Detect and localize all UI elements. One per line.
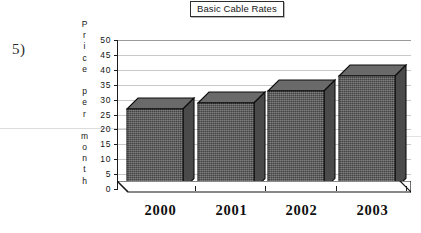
y-tick-mark [114, 189, 118, 190]
y-tick-mark [114, 100, 118, 101]
x-label-2002: 2002 [262, 202, 341, 219]
y-tick-mark [114, 144, 118, 145]
y-tick-mark [114, 115, 118, 116]
bar-2001 [198, 92, 265, 189]
y-tick-label: 20 [100, 124, 111, 134]
x-label-2000: 2000 [121, 202, 200, 219]
bar-2002 [268, 80, 335, 189]
x-tick-mark [265, 186, 266, 191]
gridline [118, 55, 411, 56]
y-tick-label: 5 [106, 169, 111, 179]
bar-front-face [339, 76, 395, 189]
y-tick-mark [114, 70, 118, 71]
bar-2003 [339, 65, 406, 189]
y-axis-label-char: o [82, 142, 87, 153]
bar-side-face [395, 65, 406, 189]
y-tick-mark [114, 85, 118, 86]
bar-side-face [324, 80, 335, 189]
y-axis-label-char: t [83, 164, 85, 175]
x-tick-mark [336, 186, 337, 191]
y-tick-mark [114, 174, 118, 175]
bar-front-face [127, 109, 183, 189]
y-axis-label-char: c [82, 53, 86, 64]
y-tick-mark [114, 129, 118, 130]
y-axis-label-char: e [82, 97, 87, 108]
y-tick-label: 0 [106, 184, 111, 194]
y-axis-label-char: e [82, 64, 87, 75]
y-axis-label-char: i [84, 41, 86, 52]
bar-front-face [198, 103, 254, 189]
y-tick-label: 15 [100, 139, 111, 149]
y-tick-mark [114, 55, 118, 56]
y-axis-label-char: n [82, 153, 87, 164]
x-label-2001: 2001 [192, 202, 271, 219]
y-axis-tick-labels: 05101520253035404550 [91, 34, 111, 194]
bar-chart: Price.per.month 05101520253035404550 200… [0, 0, 421, 233]
y-tick-label: 40 [100, 65, 111, 75]
y-tick-label: 25 [100, 110, 111, 120]
x-label-2003: 2003 [333, 202, 412, 219]
y-tick-mark [114, 159, 118, 160]
y-tick-label: 50 [100, 35, 111, 45]
x-tick-mark [406, 186, 407, 191]
y-axis-label: Price.per.month [79, 19, 90, 187]
y-axis-label-char: r [83, 109, 86, 120]
y-tick-label: 30 [100, 95, 111, 105]
y-tick-label: 45 [100, 50, 111, 60]
bar-side-face [254, 92, 265, 189]
bar-2000 [127, 98, 194, 189]
y-tick-label: 35 [100, 80, 111, 90]
x-tick-mark [195, 186, 196, 191]
y-axis-label-char: p [82, 86, 87, 97]
bar-side-face [183, 98, 194, 189]
y-axis-label-char: r [83, 30, 86, 41]
y-axis-label-char: P [82, 19, 88, 30]
gridline [118, 40, 411, 41]
bar-front-face [268, 91, 324, 189]
y-axis-label-char: h [82, 176, 87, 187]
y-tick-label: 10 [100, 154, 111, 164]
y-tick-mark [114, 40, 118, 41]
chart-floor-3d [117, 181, 411, 200]
y-axis-label-char: m [81, 131, 88, 142]
